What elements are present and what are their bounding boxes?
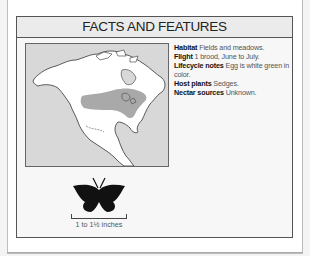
range-map	[25, 43, 169, 167]
fact-flight: Flight 1 brood, June to July.	[174, 52, 290, 61]
fact-lifecycle: Lifecycle notes Egg is white green in co…	[174, 61, 290, 79]
fact-host-plants: Host plants Sedges.	[174, 79, 290, 88]
scale-bracket	[71, 214, 127, 219]
fact-nectar-sources: Nectar sources Unknown.	[174, 88, 290, 97]
wingspan-scale: 1 to 1½ inches	[71, 214, 127, 229]
wingspan-label: 1 to 1½ inches	[71, 220, 127, 229]
facts-list: Habitat Fields and meadows. Flight 1 bro…	[174, 43, 290, 97]
divider	[7, 252, 303, 253]
fact-habitat: Habitat Fields and meadows.	[174, 43, 290, 52]
butterfly-silhouette-icon	[71, 176, 127, 216]
facts-card: FACTS AND FEATURES Habitat Fields and me…	[16, 16, 293, 238]
card-title: FACTS AND FEATURES	[17, 17, 292, 38]
north-america-map-icon	[26, 44, 168, 166]
